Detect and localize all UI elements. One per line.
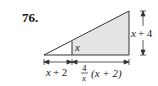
similar-triangles-diagram: x x+ 4 x+ 2 4 x (x + 2) <box>0 0 158 86</box>
base-dimension-arrows <box>44 59 129 65</box>
shaded-region <box>72 11 129 55</box>
svg-text:x: x <box>81 73 86 83</box>
svg-text:4: 4 <box>82 63 87 73</box>
inner-height-label: x <box>74 41 80 53</box>
base-left-label: x+ 2 <box>45 66 67 78</box>
outer-height-label: x+ 4 <box>130 27 153 39</box>
base-right-label: 4 x (x + 2) <box>81 63 122 83</box>
svg-text:(x + 2): (x + 2) <box>91 67 122 80</box>
